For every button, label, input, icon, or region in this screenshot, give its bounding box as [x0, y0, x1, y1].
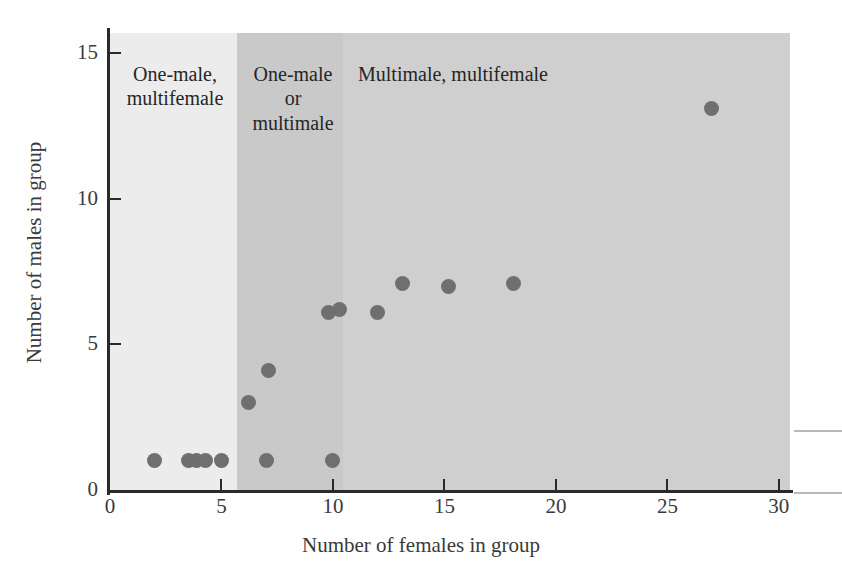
y-tick-label: 15	[52, 42, 98, 63]
x-tick-mark	[443, 479, 445, 491]
x-tick-label: 20	[526, 496, 586, 517]
region-label-multimale-multifemale: Multimale, multifemale	[358, 62, 618, 86]
data-point	[259, 453, 274, 468]
y-tick-label: 5	[52, 333, 98, 354]
x-tick-label: 5	[191, 496, 251, 517]
region-label-one-male-or-multimale: One-male or multimale	[240, 62, 346, 135]
x-tick-label: 25	[637, 496, 697, 517]
x-axis-line	[107, 490, 793, 493]
y-axis-title: Number of males in group	[22, 142, 46, 364]
data-point	[395, 276, 410, 291]
x-tick-mark	[778, 479, 780, 491]
scan-artifact-line-bottom	[794, 492, 842, 494]
y-tick-label: 10	[52, 188, 98, 209]
x-tick-label: 10	[303, 496, 363, 517]
y-axis-title-wrapper: Number of males in group	[22, 33, 47, 473]
data-point	[370, 305, 385, 320]
x-tick-mark	[666, 479, 668, 491]
data-point	[261, 363, 276, 378]
scatter-plot-figure: 051015 051015202530 Number of females in…	[0, 0, 842, 576]
x-tick-label: 0	[80, 496, 140, 517]
y-axis-line	[107, 28, 110, 495]
scan-artifact-line-top	[794, 430, 842, 432]
x-tick-label: 30	[749, 496, 809, 517]
data-point	[506, 276, 521, 291]
region-label-one-male-multifemale: One-male, multifemale	[112, 62, 238, 111]
x-tick-mark	[220, 479, 222, 491]
y-tick-mark	[110, 198, 121, 200]
y-tick-mark	[110, 52, 121, 54]
x-axis-title: Number of females in group	[0, 533, 842, 558]
data-point	[241, 395, 256, 410]
x-tick-mark	[555, 479, 557, 491]
x-tick-mark	[332, 479, 334, 491]
y-tick-mark	[110, 343, 121, 345]
x-tick-label: 15	[414, 496, 474, 517]
region-band-multimale-multifemale	[343, 33, 790, 490]
